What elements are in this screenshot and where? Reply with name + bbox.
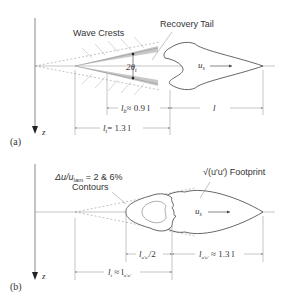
z-axis-label-a: z xyxy=(41,127,46,137)
turbulent-spot-diagram: z (a) 2θt xyxy=(0,0,295,296)
footprint-label: √(u′u′) Footprint xyxy=(203,167,266,177)
contours-label-line2: Contours xyxy=(72,182,109,192)
dim-half-label: lu′u′/2 xyxy=(139,249,156,260)
panel-tag-a: (a) xyxy=(10,136,21,148)
panel-tag-b: (b) xyxy=(10,281,22,293)
dim-l-label: l xyxy=(213,103,216,113)
panel-a: z (a) 2θt xyxy=(10,18,275,148)
dim-lb-label: lb≈ 0.9 l xyxy=(121,103,150,114)
dim-body-label: lu′u′ ≈ 1.3 l xyxy=(199,249,235,260)
z-axis-arrow-icon xyxy=(32,272,38,280)
dim-total-label: lt ≈ lu′u′ xyxy=(108,267,132,278)
panel-b: z (b) Δu/ulam = 2 & 6% Contours √(u′u′) … xyxy=(10,164,275,293)
recovery-tail-label: Recovery Tail xyxy=(160,19,214,29)
angle-label: 2θt xyxy=(126,62,137,73)
z-axis-label-b: z xyxy=(41,271,46,281)
dim-lt-label: lt= 1.3 l xyxy=(103,123,131,134)
contour-2-percent xyxy=(126,194,176,231)
z-axis-arrow-icon xyxy=(32,126,38,134)
wave-crests-label: Wave Crests xyxy=(73,28,125,38)
contours-pointer xyxy=(112,192,126,204)
